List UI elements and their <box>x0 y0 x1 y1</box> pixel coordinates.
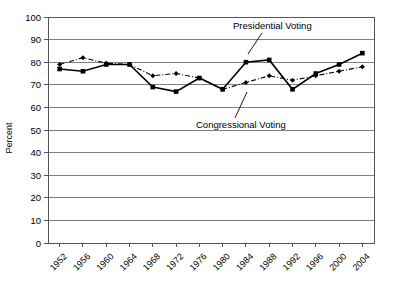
data-point-presidential-2000 <box>337 62 342 67</box>
x-axis-ticks: 1952195619601964196819721976198019841988… <box>48 243 372 273</box>
data-point-presidential-1952 <box>57 67 62 72</box>
data-point-presidential-1956 <box>81 69 86 74</box>
annotation-congressional-label: Congressional Voting <box>196 119 286 130</box>
x-tick-label-1988: 1988 <box>257 251 278 272</box>
y-tick-label-20: 20 <box>30 192 41 203</box>
y-tick-label-100: 100 <box>25 12 41 23</box>
y-tick-label-30: 30 <box>30 170 41 181</box>
x-tick-label-1992: 1992 <box>281 251 302 272</box>
x-tick-label-2000: 2000 <box>327 251 348 272</box>
data-point-presidential-1988 <box>267 58 272 63</box>
data-point-presidential-1992 <box>290 87 295 92</box>
x-tick-label-1976: 1976 <box>188 251 209 272</box>
x-tick-label-1984: 1984 <box>234 251 255 272</box>
data-point-presidential-1984 <box>244 60 249 65</box>
x-tick-label-1952: 1952 <box>48 251 69 272</box>
voter-turnout-line-chart: 0102030405060708090100 19521956196019641… <box>0 0 395 286</box>
y-tick-label-70: 70 <box>30 79 41 90</box>
annotation-presidential-label: Presidential Voting <box>233 20 312 31</box>
data-point-presidential-2004 <box>360 51 365 56</box>
y-tick-label-90: 90 <box>30 34 41 45</box>
y-tick-label-40: 40 <box>30 147 41 158</box>
y-tick-label-10: 10 <box>30 215 41 226</box>
y-axis-ticks: 0102030405060708090100 <box>25 12 48 249</box>
y-tick-label-0: 0 <box>36 238 41 249</box>
x-tick-label-1972: 1972 <box>164 251 185 272</box>
x-tick-label-1968: 1968 <box>141 251 162 272</box>
y-axis-title: Percent <box>4 122 14 154</box>
x-tick-label-1980: 1980 <box>211 251 232 272</box>
x-tick-label-1960: 1960 <box>94 251 115 272</box>
y-tick-label-80: 80 <box>30 57 41 68</box>
chart-container: 0102030405060708090100 19521956196019641… <box>0 0 395 286</box>
y-tick-label-60: 60 <box>30 102 41 113</box>
x-tick-label-1956: 1956 <box>71 251 92 272</box>
data-point-presidential-1968 <box>150 85 155 90</box>
x-tick-label-1996: 1996 <box>304 251 325 272</box>
x-tick-label-1964: 1964 <box>118 251 139 272</box>
data-point-presidential-1972 <box>174 89 179 94</box>
y-tick-label-50: 50 <box>30 125 41 136</box>
x-tick-label-2004: 2004 <box>351 251 372 272</box>
